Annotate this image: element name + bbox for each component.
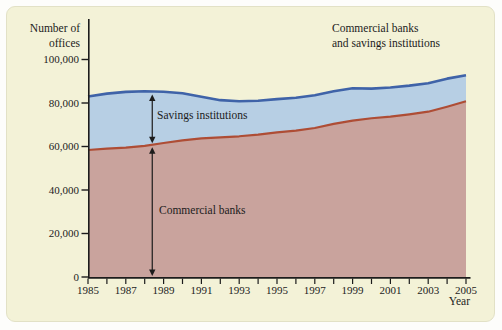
y-tick-label: 60,000 — [49, 140, 80, 152]
x-tick-label: 1997 — [304, 284, 327, 296]
x-tick-label: 1999 — [342, 284, 365, 296]
y-tick-label: 40,000 — [49, 184, 80, 196]
y-tick-label: 0 — [74, 271, 80, 283]
x-tick-label: 1995 — [266, 284, 289, 296]
x-tick-label: 1987 — [115, 284, 138, 296]
y-axis-title: Number of offices — [0, 21, 80, 51]
x-tick-label: 1991 — [190, 284, 212, 296]
y-tick-label: 20,000 — [49, 227, 80, 239]
chart-title: Commercial banks and savings institution… — [332, 21, 482, 51]
x-axis-title: Year — [400, 294, 470, 309]
savings-institutions-label: Savings institutions — [157, 108, 247, 123]
commercial-banks-label: Commercial banks — [159, 203, 246, 218]
y-ticks: 020,00040,00060,00080,000100,000 — [43, 53, 88, 282]
y-tick-label: 100,000 — [43, 53, 79, 65]
y-tick-label: 80,000 — [49, 97, 80, 109]
x-tick-label: 1989 — [153, 284, 176, 296]
x-tick-label: 2001 — [379, 284, 401, 296]
figure-root: { "figure": { "y_axis_title": "Number of… — [0, 0, 502, 330]
x-ticks: 1985198719891991199319951997199920012003… — [77, 279, 478, 296]
x-tick-label: 1993 — [228, 284, 251, 296]
x-tick-label: 1985 — [77, 284, 100, 296]
